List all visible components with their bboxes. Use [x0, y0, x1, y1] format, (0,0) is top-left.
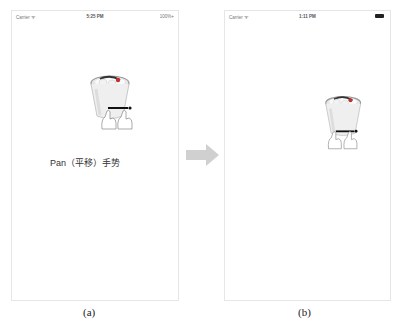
phone-screen-b: Carrier ᯤ 1:11 PM [224, 10, 391, 301]
gesture-label: Pan（平移）手势 [50, 156, 120, 169]
trash-can-pan-gesture-icon[interactable] [88, 71, 148, 141]
status-time: 1:11 PM [225, 14, 390, 19]
caption-a: (a) [83, 306, 95, 318]
phone-screen-a: Carrier ᯤ 5:25 PM 100%+ Pan（平移）手势 [11, 10, 179, 301]
status-bar: Carrier ᯤ 1:11 PM [225, 13, 390, 23]
battery-label: 100%+ [160, 14, 174, 19]
status-time: 5:25 PM [12, 14, 178, 19]
caption-b: (b) [298, 306, 311, 318]
battery-full-icon [375, 14, 384, 18]
trash-can-pan-gesture-icon[interactable] [323, 91, 378, 157]
right-arrow-icon [186, 143, 220, 167]
status-bar: Carrier ᯤ 5:25 PM 100%+ [12, 13, 178, 23]
